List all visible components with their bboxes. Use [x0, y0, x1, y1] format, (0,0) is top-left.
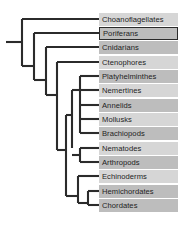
taxon-row-nemertines[interactable]: Nemertines	[99, 84, 178, 97]
taxon-row-poriferans[interactable]: Poriferans	[99, 27, 178, 40]
taxon-row-platyhelminthes[interactable]: Platyhelminthes	[99, 70, 178, 83]
taxon-label: Nematodes	[99, 144, 141, 153]
taxon-row-hemichordates[interactable]: Hemichordates	[99, 185, 178, 198]
taxon-label: Mollusks	[99, 115, 132, 124]
taxon-row-echinoderms[interactable]: Echinoderms	[99, 170, 178, 183]
taxon-row-choanoflagellates[interactable]: Choanoflagellates	[99, 13, 178, 26]
taxon-row-arthropods[interactable]: Arthropods	[99, 156, 178, 169]
taxon-label: Annelids	[99, 101, 132, 110]
cladogram-figure: Choanoflagellates Poriferans Cnidarians …	[0, 0, 183, 229]
taxon-label: Brachiopods	[99, 129, 145, 138]
taxon-row-annelids[interactable]: Annelids	[99, 99, 178, 112]
taxon-label: Platyhelminthes	[99, 72, 156, 81]
taxon-label: Nemertines	[99, 86, 141, 95]
taxon-label: Hemichordates	[99, 187, 154, 196]
taxon-label: Echinoderms	[99, 172, 147, 181]
taxon-row-brachiopods[interactable]: Brachiopods	[99, 127, 178, 140]
taxon-row-chordates[interactable]: Chordates	[99, 199, 178, 212]
taxon-row-cnidarians[interactable]: Cnidarians	[99, 41, 178, 54]
taxon-label: Poriferans	[100, 29, 138, 38]
taxon-row-nematodes[interactable]: Nematodes	[99, 142, 178, 155]
taxon-label: Ctenophores	[99, 58, 146, 67]
taxon-label: Chordates	[99, 201, 138, 210]
taxon-label: Choanoflagellates	[99, 15, 164, 24]
taxon-label: Cnidarians	[99, 43, 139, 52]
taxon-row-mollusks[interactable]: Mollusks	[99, 113, 178, 126]
taxon-row-ctenophores[interactable]: Ctenophores	[99, 56, 178, 69]
taxon-label: Arthropods	[99, 158, 140, 167]
taxon-labels: Choanoflagellates Poriferans Cnidarians …	[0, 0, 183, 229]
